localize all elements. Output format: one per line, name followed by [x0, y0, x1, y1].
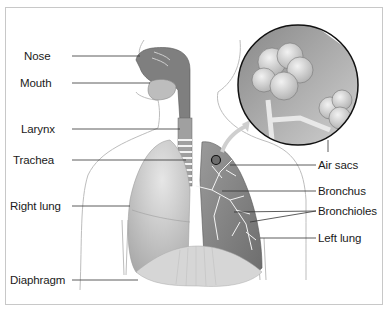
air-sac-marker: [212, 156, 221, 165]
label-left-lung: Left lung: [318, 232, 361, 244]
label-bronchus: Bronchus: [318, 185, 366, 197]
label-nose: Nose: [24, 50, 50, 62]
label-bronchioles: Bronchioles: [318, 205, 377, 217]
label-trachea: Trachea: [13, 154, 54, 166]
label-right-lung: Right lung: [10, 200, 61, 212]
head-airway: [136, 48, 190, 123]
respiratory-illustration: [0, 0, 392, 314]
magnify-arrow: [222, 126, 246, 152]
air-sacs-inset: [238, 20, 362, 145]
label-diaphragm: Diaphragm: [10, 274, 65, 286]
label-air-sacs: Air sacs: [318, 159, 358, 171]
label-mouth: Mouth: [20, 77, 51, 89]
label-larynx: Larynx: [21, 123, 55, 135]
